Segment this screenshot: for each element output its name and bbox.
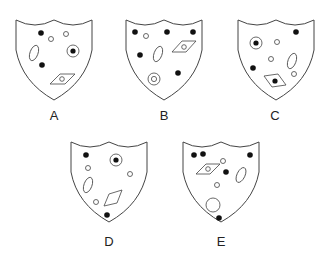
filled-dot (190, 29, 196, 35)
shield-b (126, 20, 202, 100)
diamond-dot (272, 78, 277, 83)
shield-a (16, 20, 92, 100)
filled-dot (132, 29, 138, 35)
filled-dot (200, 151, 206, 157)
filled-dot (83, 152, 89, 158)
shield-label-d: D (99, 234, 119, 249)
double-circle-outer (148, 73, 160, 85)
filled-dot (216, 215, 222, 221)
small-circle (269, 57, 274, 62)
filled-dot (38, 30, 44, 36)
small-circle (64, 32, 69, 37)
ringed-dot-inner (253, 40, 258, 45)
small-circle (49, 37, 54, 42)
filled-dot (247, 152, 253, 158)
shield-d (71, 142, 147, 222)
small-circle (94, 200, 99, 205)
diamond-circle (206, 167, 211, 172)
filled-dot (191, 152, 197, 158)
small-circle (86, 166, 91, 171)
shield-e (183, 142, 259, 222)
diamond-circle (182, 45, 187, 50)
filled-dot (39, 62, 45, 68)
oval (28, 44, 41, 62)
filled-dot (104, 212, 110, 218)
shield-outline (238, 20, 314, 100)
oval (82, 176, 95, 194)
oval (286, 52, 299, 70)
large-circle (206, 198, 220, 212)
small-circle (275, 40, 280, 45)
small-circle (144, 34, 149, 39)
filled-dot (175, 70, 181, 76)
small-circle (128, 172, 133, 177)
filled-dot (293, 29, 299, 35)
filled-dot (164, 29, 170, 35)
filled-dot (250, 65, 256, 71)
shield-label-c: C (265, 108, 285, 123)
diamond (196, 164, 220, 174)
oval (152, 45, 165, 63)
shield-label-e: E (211, 234, 231, 249)
filled-dot (223, 169, 229, 175)
diamond (172, 41, 196, 52)
diamond-circle (60, 77, 65, 82)
diamond (104, 190, 122, 206)
small-circle (215, 183, 220, 188)
shield-outline (16, 20, 92, 100)
oval (234, 166, 248, 184)
shield-c (238, 20, 314, 100)
small-circle (292, 72, 297, 77)
filled-dot (137, 52, 143, 58)
shield-outline (71, 142, 147, 222)
small-circle (221, 159, 226, 164)
shield-label-b: B (154, 108, 174, 123)
diamond (50, 74, 75, 84)
ringed-dot-inner (113, 157, 118, 162)
shields-diagram (0, 0, 325, 257)
shield-label-a: A (44, 108, 64, 123)
ringed-dot-inner (70, 48, 75, 53)
double-circle-inner (151, 76, 156, 81)
